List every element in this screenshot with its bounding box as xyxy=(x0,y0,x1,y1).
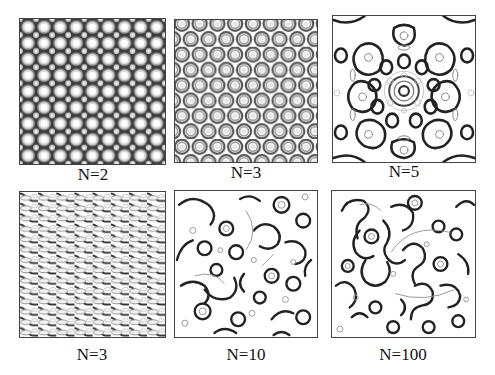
panel-label-n2: N=2 xyxy=(18,166,168,184)
panel-label-n5: N=5 xyxy=(329,163,479,181)
panel-label-n3-stripes: N=3 xyxy=(17,346,167,364)
hexagonal-rings-plot xyxy=(175,20,317,162)
pattern-panel-n3-stripes xyxy=(19,191,166,338)
pattern-panel-n100 xyxy=(331,190,476,338)
panel-label-n100: N=100 xyxy=(328,346,478,364)
disordered-10fold-plot xyxy=(175,191,317,337)
square-lattice-plot xyxy=(20,19,165,164)
pattern-panel-n5 xyxy=(332,15,476,163)
quasicrystal-5fold-plot xyxy=(333,16,475,162)
panel-label-n3-hex: N=3 xyxy=(171,164,321,182)
pattern-panel-n3-hex xyxy=(174,19,318,163)
pattern-panel-n10 xyxy=(174,190,318,338)
disordered-labyrinth-plot xyxy=(332,191,475,337)
panel-label-n10: N=10 xyxy=(171,346,321,364)
oblique-stripes-plot xyxy=(20,192,165,337)
pattern-panel-n2 xyxy=(19,18,166,165)
